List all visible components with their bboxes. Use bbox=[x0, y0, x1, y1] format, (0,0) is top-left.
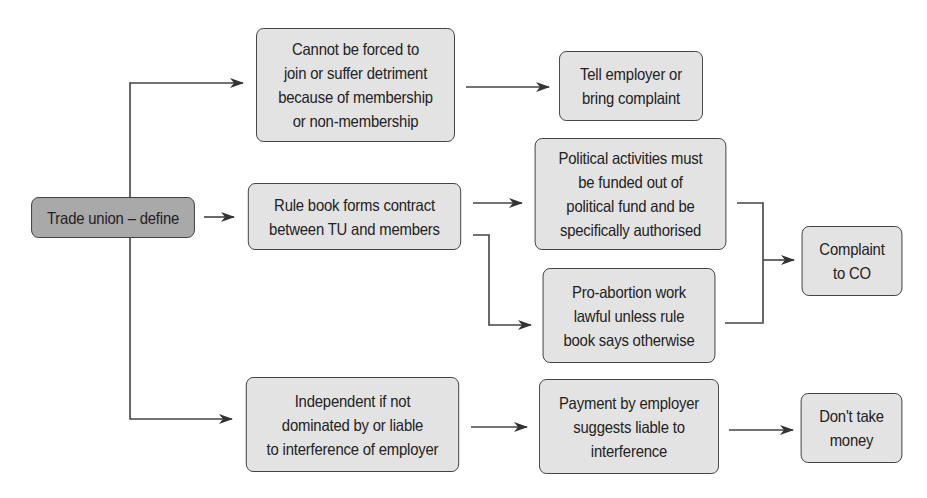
node-dont-take-money: Don't take money bbox=[801, 393, 903, 463]
node-pro-abortion: Pro-abortion work lawful unless rule boo… bbox=[543, 268, 716, 363]
node-rule-book: Rule book forms contract between TU and … bbox=[248, 183, 461, 250]
connector-lines bbox=[0, 0, 927, 498]
node-label: Political activities must be funded out … bbox=[558, 146, 702, 242]
node-label: Pro-abortion work lawful unless rule boo… bbox=[563, 280, 694, 352]
node-label: Don't take money bbox=[819, 404, 884, 452]
node-label: Rule book forms contract between TU and … bbox=[269, 193, 440, 241]
node-complaint-to-co: Complaint to CO bbox=[802, 226, 903, 296]
node-trade-union-define: Trade union – define bbox=[31, 197, 195, 238]
node-payment-by-employer: Payment by employer suggests liable to i… bbox=[539, 379, 719, 474]
node-label: Cannot be forced to join or suffer detri… bbox=[278, 37, 433, 133]
edge-root-independent bbox=[130, 238, 232, 419]
node-cannot-be-forced: Cannot be forced to join or suffer detri… bbox=[256, 28, 455, 142]
node-label: Trade union – define bbox=[47, 206, 179, 230]
node-political-activities: Political activities must be funded out … bbox=[535, 138, 727, 250]
node-label: Tell employer or bring complaint bbox=[580, 62, 682, 110]
edge-root-forced bbox=[130, 83, 243, 197]
node-label: Complaint to CO bbox=[819, 237, 884, 285]
node-independent: Independent if not dominated by or liabl… bbox=[246, 377, 459, 472]
edge-political-complaint bbox=[725, 203, 763, 323]
node-label: Independent if not dominated by or liabl… bbox=[267, 389, 439, 461]
edge-rulebook-proabortion bbox=[473, 235, 531, 325]
node-tell-employer: Tell employer or bring complaint bbox=[559, 51, 703, 121]
node-label: Payment by employer suggests liable to i… bbox=[559, 391, 699, 463]
